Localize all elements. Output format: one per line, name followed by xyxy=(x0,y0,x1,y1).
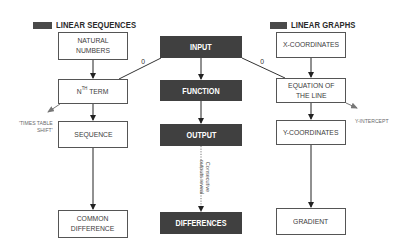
legend-linear-graphs: LINEAR GRAPHS xyxy=(270,20,363,30)
output-label: OUTPUT xyxy=(186,130,216,140)
legend-label-sequences: LINEAR SEQUENCES xyxy=(56,20,136,30)
box-nth-term: NTH TERM xyxy=(58,79,128,104)
box-sequence: SEQUENCE xyxy=(58,121,128,148)
zero-label-right: 0 xyxy=(260,57,264,66)
box-gradient: GRADIENT xyxy=(276,208,346,235)
nth-term-suffix: TERM xyxy=(88,87,109,96)
y-intercept-text: Y-INTERCEPT xyxy=(355,118,389,125)
box-equation-of-line: EQUATION OF THE LINE xyxy=(276,78,346,103)
box-common-difference: COMMON DIFFERENCE xyxy=(58,210,128,238)
consecutive-outputs-note: Consecutive outputs reveal xyxy=(199,152,211,202)
times-table-shift-annotation: 'TIMES TABLE SHIFT' xyxy=(14,113,56,134)
natural-numbers-label: NATURAL NUMBERS xyxy=(76,36,110,56)
input-label: INPUT xyxy=(190,42,212,52)
differences-label: DIFFERENCES xyxy=(175,218,226,228)
common-difference-label: COMMON DIFFERENCE xyxy=(71,214,114,234)
diagonal-input-to-nth xyxy=(119,58,161,79)
equation-of-line-label: EQUATION OF THE LINE xyxy=(288,81,334,101)
arrow-y-intercept xyxy=(346,103,357,108)
legend-swatch-graphs xyxy=(270,22,287,29)
nth-term-label: NTH TERM xyxy=(77,87,109,97)
legend-swatch-sequences xyxy=(33,22,52,29)
box-natural-numbers: NATURAL NUMBERS xyxy=(58,32,128,60)
box-differences: DIFFERENCES xyxy=(160,212,242,234)
arrow-times-table-shift xyxy=(48,104,60,112)
legend-linear-sequences: LINEAR SEQUENCES xyxy=(33,20,145,30)
legend-label-graphs: LINEAR GRAPHS xyxy=(291,20,356,30)
times-table-shift-text: 'TIMES TABLE SHIFT' xyxy=(19,120,53,134)
function-label: FUNCTION xyxy=(182,86,219,96)
zero-label-left: 0 xyxy=(141,57,145,66)
gradient-label: GRADIENT xyxy=(293,217,328,227)
box-output: OUTPUT xyxy=(160,124,242,146)
sequence-label: SEQUENCE xyxy=(74,130,112,140)
box-y-coordinates: Y-COORDINATES xyxy=(276,120,346,145)
box-x-coordinates: X-COORDINATES xyxy=(276,32,346,58)
y-intercept-annotation: Y-INTERCEPT xyxy=(352,111,391,125)
box-function: FUNCTION xyxy=(160,80,242,101)
box-input: INPUT xyxy=(160,36,242,58)
y-coordinates-label: Y-COORDINATES xyxy=(283,128,339,138)
x-coordinates-label: X-COORDINATES xyxy=(283,40,339,50)
